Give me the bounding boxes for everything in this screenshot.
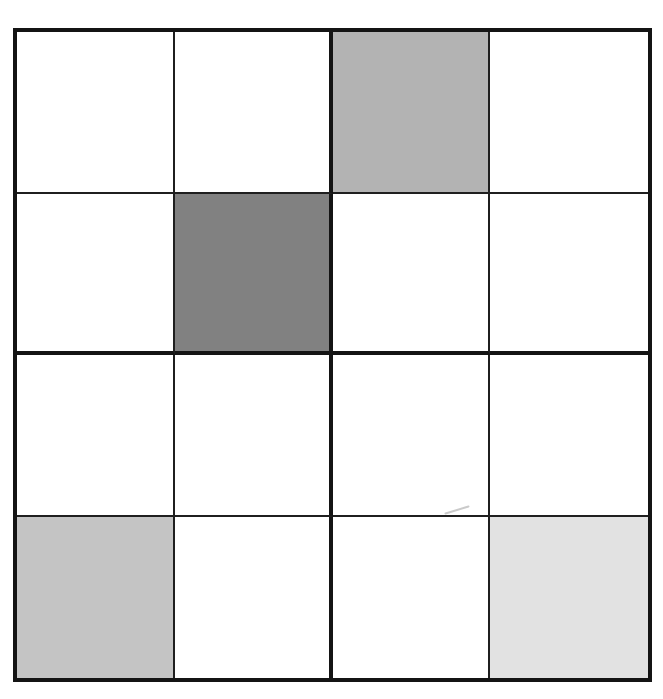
grid-cell-r4c4	[490, 517, 648, 679]
grid-cell-r3c1	[17, 355, 175, 517]
puzzle-grid	[13, 28, 652, 682]
grid-cell-r4c2	[175, 517, 333, 679]
grid-cell-r3c2	[175, 355, 333, 517]
grid-cell-r4c1	[17, 517, 175, 679]
page-canvas	[0, 0, 663, 699]
grid-cell-r2c2	[175, 194, 333, 356]
grid-cell-r2c4	[490, 194, 648, 356]
grid-cell-r2c1	[17, 194, 175, 356]
grid-cell-r1c2	[175, 32, 333, 194]
grid-cell-r3c4	[490, 355, 648, 517]
grid-cell-r1c4	[490, 32, 648, 194]
grid-cell-r3c3	[333, 355, 491, 517]
grid-cell-r1c1	[17, 32, 175, 194]
grid-cell-r1c3	[333, 32, 491, 194]
grid-cell-r4c3	[333, 517, 491, 679]
grid-cell-r2c3	[333, 194, 491, 356]
